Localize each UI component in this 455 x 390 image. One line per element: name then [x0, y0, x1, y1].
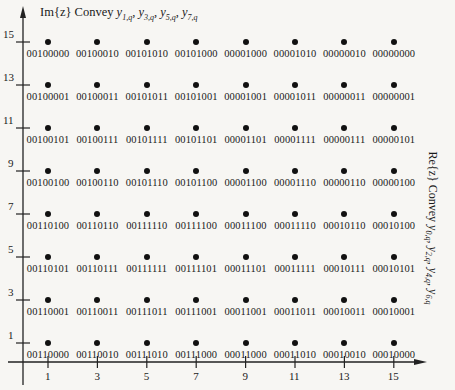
constellation-point	[45, 254, 51, 260]
constellation-point	[292, 211, 298, 217]
constellation-point	[391, 254, 397, 260]
constellation-point	[243, 254, 249, 260]
constellation-point	[94, 168, 100, 174]
point-bit-label: 00001000	[224, 48, 267, 59]
point-bit-label: 00111011	[126, 306, 168, 317]
point-bit-label: 00010100	[372, 220, 415, 231]
y-tick-label: 1	[8, 329, 14, 341]
point-bit-label: 00010011	[323, 306, 365, 317]
constellation-point	[94, 125, 100, 131]
constellation-point	[391, 168, 397, 174]
y-axis-title: Im{z} Convey y1,q, y3,q, y5,q, y7,q	[40, 5, 198, 22]
constellation-point	[94, 211, 100, 217]
point-bit-label: 00101100	[175, 177, 217, 188]
point-bit-label: 00011110	[274, 220, 316, 231]
y-tick-label: 3	[8, 286, 14, 298]
point-bit-label: 00001010	[274, 48, 317, 59]
point-bit-label: 00001011	[274, 91, 316, 102]
constellation-point	[243, 297, 249, 303]
axis-title-term: y2,q,	[426, 246, 440, 267]
point-bit-label: 00110011	[76, 306, 118, 317]
x-tick-label: 11	[289, 370, 300, 382]
point-bit-label: 00011011	[274, 306, 316, 317]
constellation-point	[193, 297, 199, 303]
point-bit-label: 00000011	[323, 91, 365, 102]
constellation-point	[243, 168, 249, 174]
point-bit-label: 00000000	[372, 48, 415, 59]
x-tick-label: 5	[144, 370, 150, 382]
constellation-point	[45, 168, 51, 174]
point-bit-label: 00101001	[175, 91, 218, 102]
axis-title-term: y1,q,	[117, 5, 139, 19]
point-bit-label: 00010001	[372, 306, 415, 317]
constellation-point	[45, 39, 51, 45]
constellation-point	[243, 82, 249, 88]
point-bit-label: 00100110	[76, 177, 118, 188]
constellation-point	[341, 254, 347, 260]
constellation-diagram: Im{z} Convey y1,q, y3,q, y5,q, y7,q Re{z…	[0, 0, 455, 390]
axis-title-term: y3,q,	[138, 5, 160, 19]
constellation-point	[193, 211, 199, 217]
y-tick-label: 9	[8, 157, 14, 169]
point-bit-label: 00101011	[126, 91, 168, 102]
constellation-point	[391, 125, 397, 131]
constellation-point	[292, 254, 298, 260]
constellation-point	[144, 211, 150, 217]
constellation-point	[45, 125, 51, 131]
y-tick-label: 7	[8, 200, 14, 212]
x-axis-arrow-icon	[414, 359, 427, 365]
point-bit-label: 00000101	[372, 134, 415, 145]
point-bit-label: 00011000	[224, 349, 266, 360]
constellation-point	[391, 39, 397, 45]
point-bit-label: 00010000	[372, 349, 415, 360]
x-tick-label: 7	[193, 370, 199, 382]
point-bit-label: 00000110	[323, 177, 365, 188]
point-bit-label: 00000111	[323, 134, 365, 145]
point-bit-label: 00100001	[27, 91, 70, 102]
constellation-point	[193, 340, 199, 346]
constellation-point	[144, 340, 150, 346]
axis-title-term: y5,q,	[160, 5, 182, 19]
x-axis-title: Re{z} Convey y0,q, y2,q, y4,q, y6,q	[424, 152, 440, 305]
x-tick-label: 3	[94, 370, 100, 382]
point-bit-label: 00100011	[76, 91, 118, 102]
constellation-point	[341, 211, 347, 217]
constellation-point	[243, 125, 249, 131]
point-bit-label: 00100000	[27, 48, 70, 59]
point-bit-label: 00000001	[372, 91, 415, 102]
constellation-point	[193, 39, 199, 45]
constellation-point	[45, 211, 51, 217]
point-bit-label: 00111101	[175, 263, 217, 274]
constellation-point	[193, 168, 199, 174]
point-bit-label: 00011111	[274, 263, 315, 274]
constellation-point	[193, 125, 199, 131]
constellation-point	[94, 340, 100, 346]
constellation-point	[292, 82, 298, 88]
constellation-point	[144, 297, 150, 303]
y-tick-label: 13	[3, 71, 14, 83]
point-bit-label: 00001001	[224, 91, 267, 102]
axis-title-term: y0,q,	[426, 225, 440, 246]
y-tick-label: 15	[3, 28, 14, 40]
axis-title-term: y4,q,	[426, 268, 440, 289]
constellation-point	[45, 82, 51, 88]
x-tick-label: 1	[45, 370, 51, 382]
constellation-point	[45, 297, 51, 303]
constellation-point	[292, 340, 298, 346]
constellation-point	[94, 82, 100, 88]
point-bit-label: 00101101	[175, 134, 217, 145]
point-bit-label: 00010111	[323, 263, 365, 274]
constellation-point	[243, 211, 249, 217]
constellation-point	[341, 39, 347, 45]
constellation-point	[144, 39, 150, 45]
point-bit-label: 00001101	[224, 134, 266, 145]
constellation-point	[243, 340, 249, 346]
point-bit-label: 00111000	[175, 349, 217, 360]
point-bit-label: 00101010	[125, 48, 168, 59]
axis-title-term: y7,q	[182, 5, 198, 19]
point-bit-label: 00001110	[274, 177, 316, 188]
constellation-point	[144, 168, 150, 174]
point-bit-label: 00011010	[274, 349, 316, 360]
constellation-point	[94, 297, 100, 303]
x-tick-label: 13	[338, 370, 349, 382]
